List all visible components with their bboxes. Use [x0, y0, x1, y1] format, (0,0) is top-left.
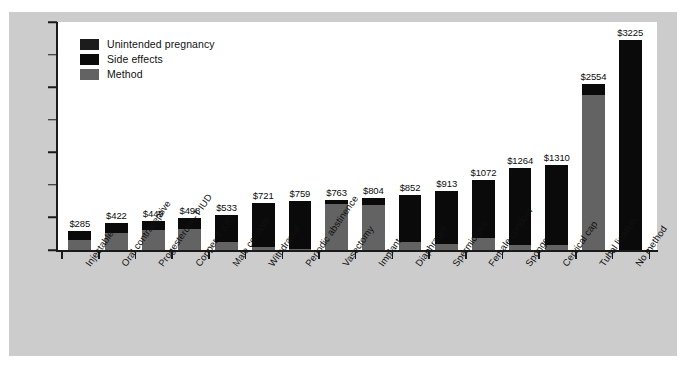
bar-segment-side-effects	[399, 195, 422, 243]
legend-swatch-side-effects	[80, 54, 99, 65]
legend-item-label: Method	[107, 68, 143, 80]
bar-value-label: $913	[436, 178, 457, 189]
chart-legend: Unintended pregnancySide effectsMethod	[80, 38, 215, 80]
bar-segment-side-effects	[68, 231, 91, 240]
legend-item: Method	[80, 68, 215, 80]
bar-value-label: $2554	[581, 71, 607, 82]
bar-segment-side-effects	[545, 165, 568, 245]
bar-value-label: $721	[253, 190, 274, 201]
bar-segment-method	[545, 245, 568, 250]
bar-segment-side-effects	[582, 84, 605, 95]
bar-segment-method	[68, 240, 91, 250]
bar-value-label: $1072	[470, 167, 496, 178]
bar-value-label: $285	[69, 218, 90, 229]
bar-cervical-cap[interactable]: $1310	[545, 165, 568, 250]
legend-item: Unintended pregnancy	[80, 38, 215, 50]
legend-item-label: Unintended pregnancy	[107, 38, 215, 50]
bar-segment-side-effects	[362, 198, 385, 205]
bar-value-label: $533	[216, 202, 237, 213]
legend-swatch-method	[80, 69, 99, 80]
bar-value-label: $422	[106, 210, 127, 221]
bar-value-label: $1310	[544, 152, 570, 163]
bar-segment-method	[289, 249, 312, 250]
bar-value-label: $804	[363, 185, 384, 196]
chart-page: $0$500$1000$1500$3000$2500$3000$3500 $28…	[0, 0, 686, 369]
bar-injectable[interactable]: $285	[68, 231, 91, 250]
bar-segment-method	[435, 244, 458, 250]
legend-item-label: Side effects	[107, 53, 163, 65]
bar-value-label: $3225	[617, 27, 643, 38]
bar-value-label: $852	[400, 182, 421, 193]
bar-segment-method	[509, 245, 532, 250]
bar-value-label: $1264	[507, 155, 533, 166]
bar-segment-method	[252, 247, 275, 250]
legend-swatch-unintended-pregnancy	[80, 39, 99, 50]
legend-item: Side effects	[80, 53, 215, 65]
bar-value-label: $763	[326, 187, 347, 198]
bar-value-label: $759	[290, 188, 311, 199]
